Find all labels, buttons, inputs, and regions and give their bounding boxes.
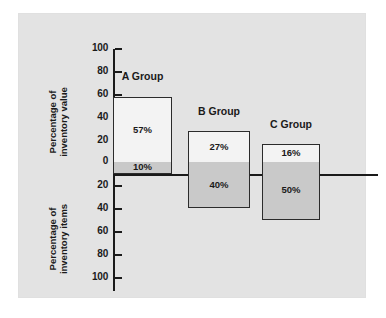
bar-b-lower-segment: 40% (188, 162, 250, 208)
y-axis-title-lower: Percentage of inventory items (47, 179, 69, 299)
y-axis-title-upper-line1: Percentage of (47, 62, 58, 182)
y-tick-60-lower (115, 231, 122, 233)
y-tick-label-0: 0 (78, 156, 108, 166)
bar-a-upper-value: 57% (133, 125, 152, 135)
y-tick-label-80-lower: 80 (78, 249, 108, 259)
bar-c-lower-value: 50% (281, 185, 300, 195)
bar-b-lower-value: 40% (209, 180, 228, 190)
bar-b-upper-segment: 27% (188, 131, 250, 162)
y-tick-20-lower (115, 185, 122, 187)
bar-c-upper-segment: 16% (262, 144, 320, 163)
bar-group-c-label: C Group (262, 118, 320, 130)
bar-b-upper-value: 27% (209, 142, 228, 152)
y-tick-label-80-upper: 80 (78, 66, 108, 76)
bar-c-upper-value: 16% (281, 148, 300, 158)
y-axis-title-lower-line1: Percentage of (47, 179, 58, 299)
bar-a-lower-value: 10% (133, 162, 152, 172)
y-tick-label-60-lower: 60 (78, 226, 108, 236)
chart-panel: 100 80 60 40 20 0 20 40 (18, 13, 366, 298)
bar-c-lower-segment: 50% (262, 162, 320, 220)
y-tick-label-60-upper: 60 (78, 89, 108, 99)
y-tick-label-100-upper: 100 (78, 43, 108, 53)
y-axis-title-upper: Percentage of inventory value (47, 62, 69, 182)
y-axis-title-upper-line2: inventory value (58, 62, 69, 182)
chart-figure: 100 80 60 40 20 0 20 40 (0, 0, 386, 318)
bar-group-a-label: A Group (113, 70, 172, 82)
bar-a-lower-segment: 10% (113, 162, 172, 174)
bar-group-b-label: B Group (188, 105, 250, 117)
y-tick-label-40-lower: 40 (78, 203, 108, 213)
y-axis-title-lower-line2: inventory items (58, 179, 69, 299)
y-tick-label-20-lower: 20 (78, 180, 108, 190)
y-tick-100-upper (115, 48, 122, 50)
y-tick-label-20-upper: 20 (78, 135, 108, 145)
y-tick-label-40-upper: 40 (78, 112, 108, 122)
bar-a-upper-segment: 57% (113, 97, 172, 163)
y-tick-80-lower (115, 254, 122, 256)
y-tick-40-lower (115, 208, 122, 210)
y-tick-label-100-lower: 100 (78, 272, 108, 282)
y-tick-100-lower (115, 277, 122, 279)
